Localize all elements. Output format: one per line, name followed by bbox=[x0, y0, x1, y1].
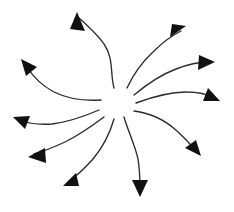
arrow-canvas bbox=[0, 0, 234, 212]
canvas-background bbox=[0, 0, 234, 212]
radial-arrow-diagram bbox=[0, 0, 234, 212]
